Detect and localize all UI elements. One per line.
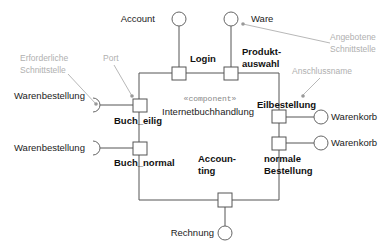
provided-interface-rechnung-icon [218, 226, 232, 240]
annotation-port: Port [103, 53, 134, 98]
annotation-required-interface-1: Erforderliche [20, 53, 68, 63]
port-normale-bestellung[interactable] [272, 136, 328, 150]
annotation-provided-interface-1: Angebotene [330, 32, 376, 42]
port-label-accounting-2: ting [198, 165, 216, 176]
port-label-login: Login [190, 53, 216, 64]
provided-interface-ware-icon [224, 12, 238, 26]
interface-label-ware: Ware [251, 13, 273, 24]
port-buch-normal[interactable] [93, 141, 147, 155]
annotation-provided-interface-2: Schnittstelle [330, 44, 376, 54]
annotation-port-name: Anschlussname [292, 66, 352, 98]
interface-label-warenkorb-2: Warenkorb [331, 137, 377, 148]
component-name: Internetbuchhandlung [162, 106, 254, 117]
port-label-buch-eilig: Buch_eilig [114, 115, 162, 126]
port-buch-eilig[interactable] [93, 98, 147, 112]
port-login[interactable] [172, 12, 186, 80]
port-label-buch-normal: Buch_normal [114, 157, 175, 168]
provided-interface-warenkorb-2-icon [314, 136, 328, 150]
port-eilbestellung[interactable] [272, 110, 328, 124]
required-interface-warenbestellung-2-icon [93, 141, 100, 155]
port-label-normale-bestellung-1: normale [264, 153, 301, 164]
annotation-required-interface-2: Schnittstelle [20, 65, 66, 75]
interface-label-warenbestellung-1: Warenbestellung [14, 90, 85, 101]
port-label-eilbestellung: Eilbestellung [257, 99, 316, 110]
interface-label-warenbestellung-2: Warenbestellung [14, 142, 85, 153]
interface-label-rechnung: Rechnung [171, 227, 214, 238]
provided-interface-warenkorb-1-icon [314, 110, 328, 124]
provided-interface-account-icon [172, 12, 186, 26]
interface-label-warenkorb-1: Warenkorb [331, 111, 377, 122]
component-stereotype: «component» [184, 94, 237, 103]
interface-label-account: Account [121, 13, 156, 24]
port-label-normale-bestellung-2: Bestellung [264, 165, 313, 176]
port-label-produktauswahl-2: auswahl [242, 58, 280, 69]
port-produktauswahl[interactable] [224, 12, 238, 80]
annotation-port-label: Port [103, 53, 119, 63]
annotation-port-name-label: Anschlussname [292, 66, 352, 76]
component-boundary [139, 73, 279, 200]
port-accounting[interactable] [218, 193, 232, 240]
port-label-accounting-1: Accoun- [198, 153, 236, 164]
port-label-produktauswahl-1: Produkt- [242, 46, 281, 57]
component-diagram: «component» Internetbuchhandlung Account… [0, 0, 388, 244]
